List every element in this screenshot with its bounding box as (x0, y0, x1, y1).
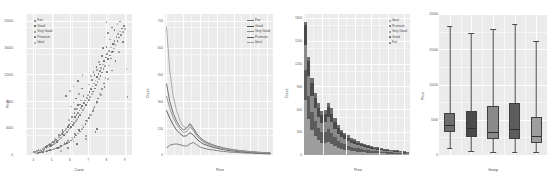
scatter-point (79, 131, 81, 133)
y-tick-label: 5000 (418, 118, 438, 122)
whisker-lower (514, 139, 515, 152)
legend-item-label: Very Good (255, 29, 270, 34)
legend-item-very-good[interactable]: Very Good (389, 29, 407, 34)
scatter-point (115, 60, 117, 62)
panel-histogram-price-count: Count 1800150012009006003000 50025004500… (280, 0, 417, 176)
panel1-plot-area: FairGoodVery GoodPremiumIdeal (26, 14, 132, 155)
legend-item-label: Good (37, 24, 45, 29)
scatter-point (104, 65, 106, 67)
panel3-y-axis-label: Count (285, 88, 289, 98)
scatter-point (54, 138, 56, 140)
scatter-point (69, 90, 71, 92)
legend-line-swatch (247, 20, 254, 21)
scatter-point (68, 141, 70, 143)
whisker-cap-lower (469, 151, 475, 152)
scatter-point (93, 71, 95, 73)
scatter-point (73, 122, 75, 124)
scatter-point (63, 134, 65, 136)
scatter-point (108, 50, 110, 52)
legend-dot-swatch (34, 20, 36, 22)
legend-item-label: Ideal (37, 40, 44, 45)
scatter-point (99, 64, 101, 66)
scatter-point (81, 112, 83, 114)
scatter-point (62, 131, 64, 133)
legend-item-ideal[interactable]: Ideal (34, 40, 52, 45)
boxplot-ideal (525, 14, 547, 155)
scatter-point (85, 138, 87, 140)
y-tick-label: 300 (143, 100, 163, 104)
legend-item-good[interactable]: Good (389, 35, 407, 40)
legend-item-fair[interactable]: Fair (34, 18, 52, 23)
legend-line-swatch (247, 26, 254, 27)
scatter-point (88, 99, 90, 101)
scatter-point (74, 136, 76, 138)
y-tick-label: 1200 (282, 62, 302, 66)
scatter-point (106, 46, 108, 48)
legend-line-swatch (247, 37, 254, 38)
scatter-point (96, 128, 98, 130)
scatter-point (127, 96, 129, 98)
legend-item-label: Good (255, 24, 263, 29)
scatter-point (49, 144, 51, 146)
panel1-legend[interactable]: FairGoodVery GoodPremiumIdeal (34, 18, 52, 45)
scatter-point (90, 75, 92, 77)
scatter-point (106, 21, 108, 23)
scatter-point (85, 123, 87, 125)
panel1-x-axis-label: Carat (75, 168, 84, 172)
whisker-upper (450, 26, 451, 113)
scatter-point (118, 37, 120, 39)
scatter-point (95, 84, 97, 86)
legend-dot-swatch (389, 42, 391, 44)
scatter-point (81, 88, 83, 90)
whisker-cap-upper (490, 29, 496, 30)
legend-dot-swatch (34, 31, 36, 33)
legend-item-fair[interactable]: Fair (389, 40, 407, 45)
legend-item-label: Fair (37, 18, 43, 23)
scatter-point (78, 93, 80, 95)
gridline-horizontal-minor (26, 81, 132, 82)
legend-item-label: Premium (392, 24, 405, 29)
legend-item-ideal[interactable]: Ideal (389, 18, 407, 23)
legend-item-premium[interactable]: Premium (389, 24, 407, 29)
y-tick-label: 450 (143, 73, 163, 77)
scatter-point (111, 70, 113, 72)
scatter-point (117, 40, 119, 42)
scatter-point (72, 138, 74, 140)
y-tick-label: 16000 (0, 46, 13, 50)
scatter-point (101, 72, 103, 74)
panel2-legend[interactable]: FairGoodVery GoodPremiumIdeal (247, 18, 270, 45)
legend-item-label: Fair (255, 18, 261, 23)
x-tick-label: 5 (51, 158, 53, 162)
scatter-point (117, 33, 119, 35)
whisker-lower (536, 143, 537, 152)
scatter-point (70, 140, 72, 142)
line-series-premium (166, 84, 270, 153)
legend-item-premium[interactable]: Premium (247, 35, 270, 40)
panel2-x-axis-label: Price (216, 168, 224, 172)
scatter-point (107, 58, 109, 60)
scatter-point (81, 105, 83, 107)
boxplot-very-good (482, 14, 504, 155)
legend-item-label: Ideal (392, 18, 399, 23)
panel3-legend[interactable]: IdealPremiumVery GoodGoodFair (389, 18, 407, 45)
y-tick-label: 750 (143, 19, 163, 23)
legend-item-premium[interactable]: Premium (34, 35, 52, 40)
legend-item-fair[interactable]: Fair (247, 18, 270, 23)
y-tick-label: 10000 (418, 83, 438, 87)
legend-item-good[interactable]: Good (247, 24, 270, 29)
legend-item-good[interactable]: Good (34, 24, 52, 29)
legend-item-ideal[interactable]: Ideal (247, 40, 270, 45)
gridline-horizontal (26, 74, 132, 75)
y-tick-label: 4000 (0, 126, 13, 130)
scatter-point (67, 147, 69, 149)
legend-item-label: Premium (255, 35, 268, 40)
legend-item-very-good[interactable]: Very Good (247, 29, 270, 34)
y-tick-label: 0 (418, 153, 438, 157)
y-tick-label: 20000 (0, 19, 13, 23)
boxplot-good (461, 14, 483, 155)
scatter-point (83, 95, 85, 97)
median-line (510, 129, 519, 130)
legend-item-very-good[interactable]: Very Good (34, 29, 52, 34)
panel3-plot-area: IdealPremiumVery GoodGoodFair (304, 14, 410, 155)
scatter-point (109, 55, 111, 57)
